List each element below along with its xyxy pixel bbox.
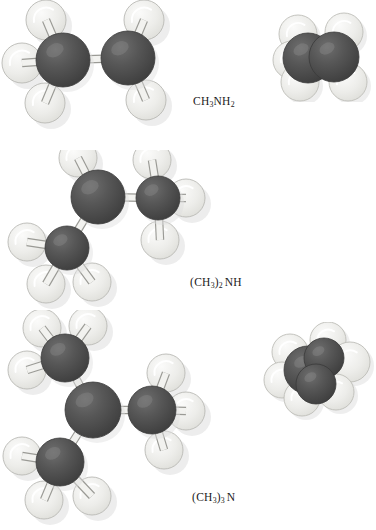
ball-and-stick-model-methylamine	[0, 0, 200, 150]
space-filling-model-methylamine	[272, 12, 376, 102]
molecule-row-dimethylamine: (CH3)2NH	[0, 150, 376, 310]
ball-and-stick-model-trimethylamine	[0, 310, 220, 530]
ball-and-stick-model-dimethylamine	[0, 150, 220, 310]
formula-label-trimethylamine: (CH3)3N	[192, 492, 235, 505]
amine-molecular-models-figure: CH3NH2 (CH3)2NH (CH3)3N	[0, 0, 376, 530]
molecule-row-trimethylamine: (CH3)3N	[0, 310, 376, 530]
formula-label-dimethylamine: (CH3)2NH	[190, 277, 242, 290]
formula-label-methylamine: CH3NH2	[193, 96, 235, 109]
molecule-row-methylamine: CH3NH2	[0, 0, 376, 150]
